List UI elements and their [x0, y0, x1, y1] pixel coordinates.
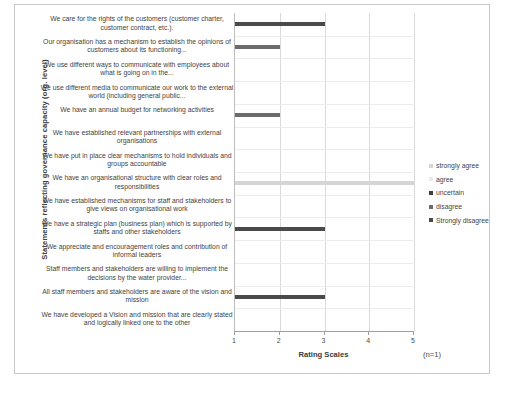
legend-swatch-icon — [429, 191, 433, 195]
x-tick — [324, 331, 325, 335]
gridline-horizontal — [235, 263, 413, 264]
bar — [235, 181, 414, 185]
x-tick — [413, 331, 414, 335]
category-label: We have a strategic plan (business plan)… — [37, 220, 237, 237]
gridline-vertical — [414, 13, 415, 331]
legend-item: strongly agree — [429, 159, 505, 173]
legend-item: uncertain — [429, 186, 505, 200]
x-tick — [368, 331, 369, 335]
sample-size-annotation: (n=1) — [423, 350, 441, 359]
category-label: We have developed a Vision and mission t… — [37, 311, 237, 328]
category-label: We use different ways to communicate wit… — [37, 61, 237, 78]
x-tick-label: 3 — [314, 337, 334, 344]
gridline-horizontal — [235, 195, 413, 196]
legend-label: disagree — [436, 203, 462, 210]
bar — [235, 227, 325, 231]
x-tick — [234, 331, 235, 335]
x-tick-label: 5 — [403, 337, 423, 344]
gridline-horizontal — [235, 81, 413, 82]
legend-swatch-icon — [429, 164, 433, 168]
gridline-horizontal — [235, 58, 413, 59]
category-label: Our organisation has a mechanism to esta… — [37, 38, 237, 55]
x-tick-label: 2 — [269, 337, 289, 344]
legend-swatch-icon — [429, 177, 433, 181]
category-label: We have established mechanisms for staff… — [37, 197, 237, 214]
x-tick-label: 1 — [224, 337, 244, 344]
x-tick-label: 4 — [358, 337, 378, 344]
category-label: Staff members and stakeholders are willi… — [37, 265, 237, 282]
x-axis-label: Rating Scales — [234, 350, 413, 359]
legend-item: agree — [429, 173, 505, 187]
category-label: We have put in place clear mechanisms to… — [37, 152, 237, 169]
gridline-horizontal — [235, 127, 413, 128]
legend-label: uncertain — [436, 189, 464, 196]
category-label: We have established relevant partnership… — [37, 129, 237, 146]
bar — [235, 295, 325, 299]
legend-swatch-icon — [429, 205, 433, 209]
gridline-horizontal — [235, 172, 413, 173]
legend-label: Strongly disagree — [436, 217, 489, 224]
category-label-list: We care for the rights of the customers … — [37, 13, 237, 331]
category-label: We appreciate and encouragement roles an… — [37, 243, 237, 260]
category-label: We have an annual budget for networking … — [37, 106, 237, 114]
legend: strongly agreeagreeuncertaindisagreeStro… — [429, 159, 505, 227]
legend-item: disagree — [429, 200, 505, 214]
category-label: We care for the rights of the customers … — [37, 15, 237, 32]
gridline-horizontal — [235, 308, 413, 309]
chart-frame: Statements reflecting governance capacit… — [14, 4, 490, 374]
legend-item: Strongly disagree — [429, 213, 505, 227]
legend-label: strongly agree — [436, 162, 479, 169]
category-label: All staff members and stakeholders are a… — [37, 288, 237, 305]
bar — [235, 45, 280, 49]
gridline-horizontal — [235, 240, 413, 241]
plot-area — [234, 13, 413, 331]
gridline-horizontal — [235, 149, 413, 150]
x-tick — [279, 331, 280, 335]
category-label: We have an organisational structure with… — [37, 174, 237, 191]
gridline-horizontal — [235, 286, 413, 287]
legend-label: agree — [436, 176, 453, 183]
gridline-horizontal — [235, 217, 413, 218]
bar — [235, 22, 325, 26]
bar — [235, 113, 280, 117]
category-label: We use different media to communicate ou… — [37, 84, 237, 101]
gridline-horizontal — [235, 104, 413, 105]
gridline-horizontal — [235, 36, 413, 37]
legend-swatch-icon — [429, 218, 433, 222]
